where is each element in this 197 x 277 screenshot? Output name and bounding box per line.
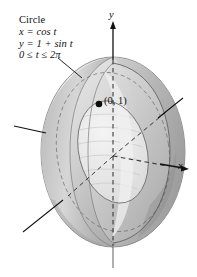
caption-equation-y: y = 1 + sin t (19, 38, 73, 50)
z-axis-near-outside (23, 200, 63, 232)
caption-block: Circle x = cos t y = 1 + sin t 0 ≤ t ≤ 2… (19, 14, 73, 61)
caption-parameter-domain: 0 ≤ t ≤ 2π (19, 49, 73, 61)
caption-title: Circle (19, 14, 73, 26)
x-axis-left-segment (14, 126, 46, 133)
point-label-0-1: (0, 1) (104, 95, 127, 106)
figure-torus-solid-of-revolution: Circle x = cos t y = 1 + sin t 0 ≤ t ≤ 2… (0, 0, 197, 277)
caption-leader-line (58, 58, 82, 78)
y-axis-arrowhead (110, 21, 116, 29)
point-marker-0-1 (96, 101, 103, 108)
torus-body (40, 55, 190, 255)
x-axis-label: x (178, 160, 183, 171)
y-axis-label: y (109, 9, 114, 20)
caption-equation-x: x = cos t (19, 26, 73, 38)
